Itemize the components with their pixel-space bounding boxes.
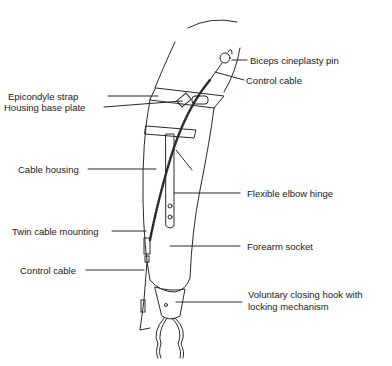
leader-control-cable-top bbox=[215, 72, 244, 80]
label-forearm-socket: Forearm socket bbox=[247, 241, 313, 252]
label-epicondyle-strap: Epicondyle strap bbox=[8, 91, 78, 102]
label-flexible-elbow-hinge: Flexible elbow hinge bbox=[247, 188, 333, 199]
label-biceps-cineplasty-pin: Biceps cineplasty pin bbox=[250, 55, 339, 66]
hook-fingers bbox=[156, 318, 184, 358]
label-cable-housing: Cable housing bbox=[18, 164, 79, 175]
upper-arm-outline bbox=[155, 42, 175, 88]
label-control-cable-top: Control cable bbox=[246, 75, 302, 86]
label-hook-line1: Voluntary closing hook with bbox=[248, 289, 363, 300]
label-hook-line2: locking mechanism bbox=[248, 301, 329, 312]
control-cable-upper bbox=[210, 63, 222, 80]
label-housing-base-plate: Housing base plate bbox=[4, 102, 85, 113]
leader-housing-base-plate bbox=[104, 101, 182, 107]
label-twin-cable-mounting: Twin cable mounting bbox=[12, 226, 99, 237]
epicondyle-strap-shape bbox=[150, 88, 224, 108]
label-control-cable-bottom: Control cable bbox=[20, 265, 76, 276]
biceps-pin bbox=[220, 53, 230, 63]
shoulder-outline bbox=[188, 20, 237, 28]
